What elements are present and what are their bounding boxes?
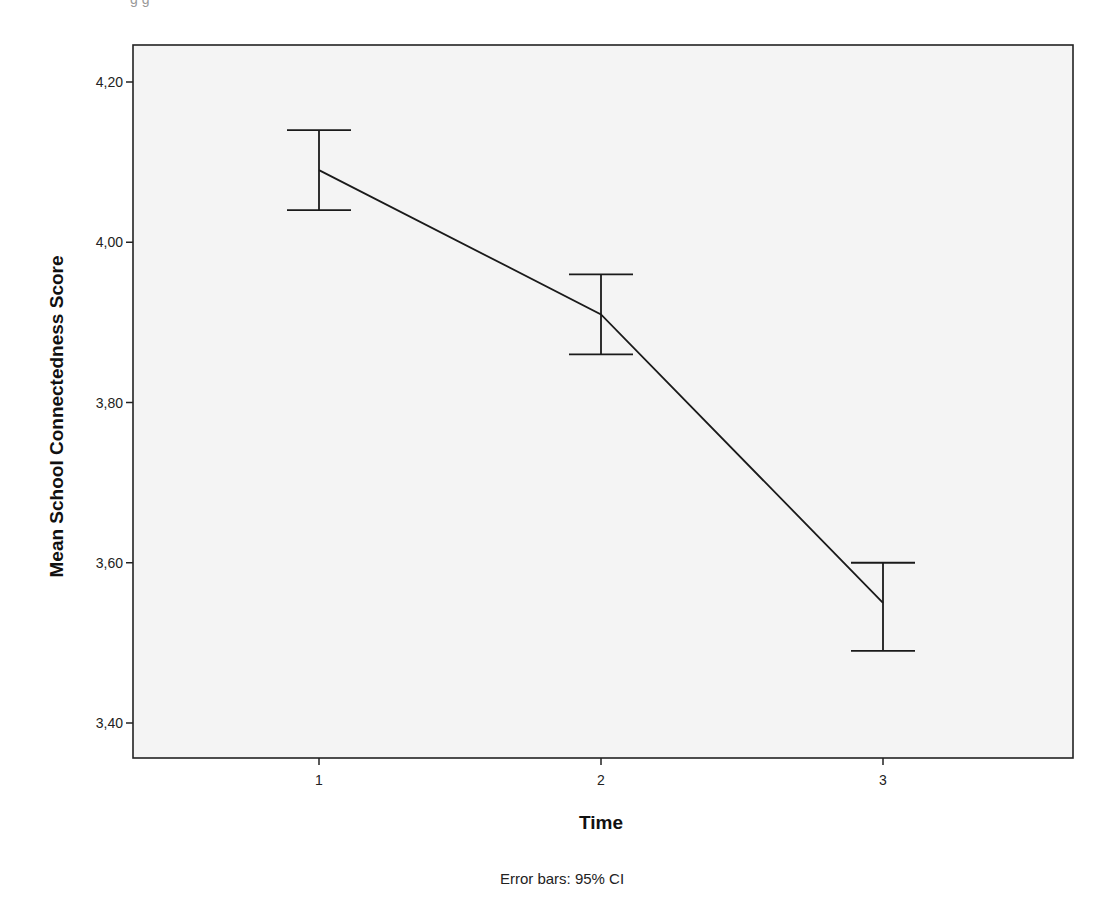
x-tick-label: 3 [879, 772, 887, 788]
x-axis-title: Time [579, 812, 623, 833]
y-axis-title: Mean School Connectedness Score [46, 255, 67, 577]
plot-area [133, 45, 1073, 758]
x-tick-label: 2 [597, 772, 605, 788]
y-tick-label: 4,00 [96, 234, 123, 250]
y-tick-label: 3,40 [96, 715, 123, 731]
y-tick-label: 3,60 [96, 555, 123, 571]
y-tick-label: 3,80 [96, 395, 123, 411]
y-axis: 3,403,603,804,004,20 [96, 74, 133, 731]
error-bar-footnote: Error bars: 95% CI [500, 870, 624, 887]
x-tick-label: 1 [315, 772, 323, 788]
x-axis: 123 [315, 758, 887, 788]
line-chart: 3,403,603,804,004,20 123 Mean School Con… [0, 0, 1108, 906]
y-tick-label: 4,20 [96, 74, 123, 90]
